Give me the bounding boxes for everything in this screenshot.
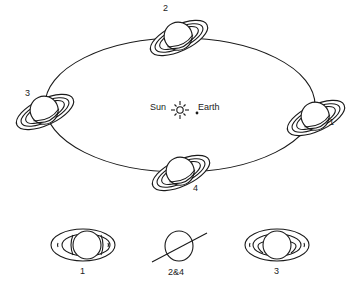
- saturn-position-3: [10, 84, 78, 136]
- view-label-1: 1: [80, 267, 85, 276]
- earth-label: Earth: [198, 103, 220, 112]
- view-label-3: 3: [274, 267, 279, 276]
- sun-icon: [171, 101, 189, 119]
- saturn-orbit-diagram: 2 3 1 4 Sun Earth 1 2&4 3: [0, 0, 357, 293]
- position-label-3: 3: [25, 89, 30, 98]
- view-1-saturn: [51, 229, 115, 261]
- position-label-1: 1: [329, 118, 334, 127]
- position-label-4: 4: [193, 184, 198, 193]
- sun-label: Sun: [150, 103, 166, 112]
- saturn-position-2: [144, 10, 212, 62]
- position-label-2: 2: [163, 4, 168, 13]
- view-2-4-saturn: [152, 231, 207, 262]
- view-3-saturn: [245, 229, 309, 261]
- saturn-position-1: [281, 90, 349, 142]
- view-label-2-4: 2&4: [168, 268, 184, 277]
- saturn-position-4: [146, 145, 214, 197]
- earth-dot: [196, 112, 199, 115]
